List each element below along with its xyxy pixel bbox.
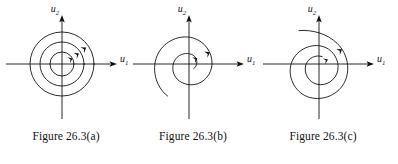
- phase-portrait-b: u2 u1: [127, 2, 259, 126]
- axis-u2-c: [316, 15, 322, 119]
- axis-label-u1-b: u1: [247, 53, 255, 66]
- axis-u2-a: [59, 15, 65, 119]
- phase-portrait-c: u2 u1: [257, 2, 389, 126]
- spiral-trajectory-b: [155, 37, 212, 96]
- axis-u1-c: [263, 61, 374, 67]
- direction-arrow-outer-c: [336, 49, 342, 55]
- phase-portrait-a: u2 u1: [0, 2, 132, 126]
- axis-label-u2-b: u2: [178, 3, 187, 16]
- caption-a: Figure 26.3(a): [0, 130, 132, 142]
- direction-arrow-outer-a: [81, 47, 87, 53]
- subfigure-b: u2 u1 Figure 26.3(b): [127, 0, 259, 164]
- axis-label-u2-c: u2: [308, 3, 317, 16]
- figure-panel: u2 u1 Figure 26.3(a): [0, 0, 398, 164]
- axis-u1-b: [133, 61, 244, 67]
- direction-arrow-inner-a: [68, 57, 73, 63]
- direction-arrow-inner-c: [323, 58, 328, 64]
- direction-arrow-middle-a: [74, 53, 79, 59]
- caption-c: Figure 26.3(c): [257, 130, 389, 142]
- axis-u2-b: [186, 15, 192, 119]
- subfigure-a: u2 u1 Figure 26.3(a): [0, 0, 132, 164]
- subfigure-c: u2 u1 Figure 26.3(c): [257, 0, 389, 164]
- axis-label-u2-a: u2: [51, 3, 60, 16]
- axis-u1-a: [6, 61, 117, 67]
- direction-arrow-outer-b: [204, 52, 210, 58]
- axis-label-u1-c: u1: [377, 53, 385, 66]
- caption-b: Figure 26.3(b): [127, 130, 259, 142]
